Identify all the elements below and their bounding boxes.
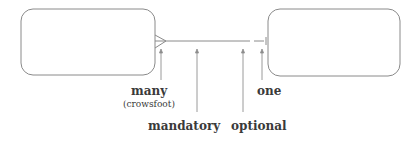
- optional-pointer-arrow: [242, 49, 245, 112]
- label-one: one: [257, 84, 281, 98]
- label-many: many: [131, 84, 167, 98]
- label-mandatory: mandatory: [148, 119, 220, 133]
- left-entity-box: [21, 9, 155, 75]
- label-crowsfoot: (crowsfoot): [123, 99, 175, 109]
- one-pointer-arrow: [261, 49, 264, 80]
- mandatory-pointer-arrow: [196, 49, 199, 112]
- er-notation-diagram: many (crowsfoot) mandatory optional one: [0, 0, 416, 141]
- label-optional: optional: [231, 119, 287, 133]
- right-entity-box: [268, 9, 400, 76]
- many-pointer-arrow: [160, 49, 163, 80]
